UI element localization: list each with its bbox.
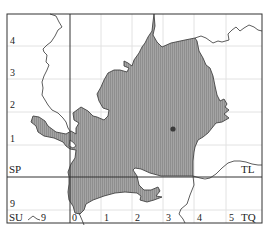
northing-label-1: 1	[10, 134, 15, 144]
easting-label-3: 3	[166, 213, 171, 223]
easting-label-1: 1	[104, 213, 109, 223]
easting-label-0: 0	[72, 213, 77, 223]
northing-label-3: 3	[10, 68, 15, 78]
grid-square-tq: TQ	[241, 212, 256, 223]
grid-square-sp: SP	[9, 164, 21, 175]
northing-label-2: 2	[10, 100, 15, 110]
distribution-region	[31, 14, 229, 214]
grid-square-tl: TL	[241, 164, 254, 175]
easting-label-9: 9	[41, 213, 46, 223]
northing-label-9: 9	[10, 199, 15, 209]
easting-label-4: 4	[197, 213, 202, 223]
northing-label-4: 4	[10, 36, 15, 46]
easting-label-2: 2	[135, 213, 140, 223]
grid-square-su: SU	[9, 212, 23, 223]
distribution-map	[0, 0, 263, 234]
record-dot	[170, 126, 175, 131]
easting-label-5: 5	[229, 213, 234, 223]
